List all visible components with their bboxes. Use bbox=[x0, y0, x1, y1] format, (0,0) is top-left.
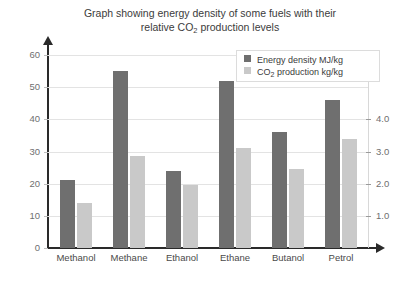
y-axis-tick-label: 60 bbox=[14, 49, 40, 60]
y-axis-tick-mark bbox=[44, 55, 48, 56]
bar-energy-density bbox=[325, 100, 340, 248]
y-axis-arrow-icon bbox=[43, 36, 53, 45]
bar-energy-density bbox=[272, 132, 287, 248]
legend-item-energy-density: Energy density MJ/kg bbox=[244, 54, 343, 66]
legend-swatch-icon-co2-production bbox=[244, 67, 251, 74]
y-axis-tick-mark bbox=[44, 152, 48, 153]
bar-energy-density bbox=[113, 71, 128, 248]
gridline bbox=[48, 119, 368, 120]
right-axis-tick-mark bbox=[366, 216, 371, 217]
plot-area bbox=[48, 55, 368, 248]
bar-co2-production bbox=[289, 169, 304, 248]
gridline bbox=[48, 184, 368, 185]
right-axis-tick-mark bbox=[366, 119, 371, 120]
bar-energy-density bbox=[219, 81, 234, 248]
x-axis-category-label: Ethanol bbox=[152, 252, 212, 263]
x-axis-category-label: Methanol bbox=[46, 252, 106, 263]
x-axis-category-label: Petrol bbox=[311, 252, 371, 263]
legend-label-co2-subscript: 2 bbox=[271, 71, 275, 78]
bar-co2-production bbox=[77, 203, 92, 248]
x-axis-category-label: Ethane bbox=[205, 252, 265, 263]
x-axis-category-label: Butanol bbox=[258, 252, 318, 263]
bar-co2-production bbox=[342, 139, 357, 248]
right-axis-tick-label: 2.0 bbox=[376, 178, 402, 189]
gridline bbox=[48, 152, 368, 153]
chart-title-subscript: 2 bbox=[193, 26, 197, 35]
gridline bbox=[48, 216, 368, 217]
chart-title: Graph showing energy density of some fue… bbox=[40, 6, 380, 36]
bar-co2-production bbox=[183, 185, 198, 248]
x-axis-category-label: Methane bbox=[99, 252, 159, 263]
y-axis-tick-mark bbox=[44, 119, 48, 120]
legend-item-co2-production: CO2 production kg/kg bbox=[244, 66, 343, 78]
y-axis-tick-label: 10 bbox=[14, 210, 40, 221]
chart-legend: Energy density MJ/kg CO2 production kg/k… bbox=[236, 50, 380, 82]
legend-swatch-icon-energy-density bbox=[244, 55, 251, 62]
y-axis-tick-label: 0 bbox=[14, 242, 40, 253]
y-axis-tick-label: 40 bbox=[14, 113, 40, 124]
y-axis-tick-label: 30 bbox=[14, 146, 40, 157]
x-axis-arrow-icon bbox=[376, 243, 385, 253]
right-axis-tick-label: 4.0 bbox=[376, 113, 402, 124]
chart-title-line-1: Graph showing energy density of some fue… bbox=[84, 7, 336, 19]
chart-container: Graph showing energy density of some fue… bbox=[0, 0, 415, 287]
legend-label-co2-pre: CO bbox=[257, 67, 271, 77]
y-axis-tick-mark bbox=[44, 216, 48, 217]
legend-label-co2-production: CO2 production kg/kg bbox=[257, 67, 343, 77]
right-axis-tick-mark bbox=[366, 184, 371, 185]
legend-label-energy-density: Energy density MJ/kg bbox=[257, 55, 343, 65]
legend-label-co2-post: production kg/kg bbox=[274, 67, 343, 77]
chart-title-line-2-pre: relative CO bbox=[141, 21, 194, 33]
bar-co2-production bbox=[236, 148, 251, 248]
chart-title-line-2-post: production levels bbox=[197, 21, 279, 33]
y-axis-tick-label: 20 bbox=[14, 178, 40, 189]
y-axis-tick-mark bbox=[44, 248, 48, 249]
bar-energy-density bbox=[60, 180, 75, 248]
y-axis-tick-mark bbox=[44, 87, 48, 88]
bar-co2-production bbox=[130, 156, 145, 248]
y-axis-tick-label: 50 bbox=[14, 81, 40, 92]
right-axis-tick-label: 1.0 bbox=[376, 210, 402, 221]
y-axis-tick-mark bbox=[44, 184, 48, 185]
right-axis-tick-mark bbox=[366, 152, 371, 153]
right-axis-tick-label: 3.0 bbox=[376, 146, 402, 157]
gridline bbox=[48, 87, 368, 88]
bar-energy-density bbox=[166, 171, 181, 248]
